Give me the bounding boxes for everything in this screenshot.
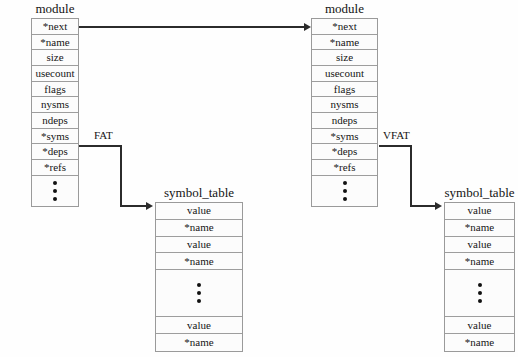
edge-vfat-segment-horizontal-bottom xyxy=(410,205,437,207)
edge-fat-segment-horizontal-top xyxy=(79,145,122,147)
field-nysms: nysms xyxy=(312,97,377,113)
struct-symbol-table-left: symbol_table value *name value *name val… xyxy=(155,185,243,355)
field-syms: *syms xyxy=(32,129,78,145)
field-refs: *refs xyxy=(32,160,78,176)
ellipsis-dot xyxy=(343,189,347,193)
diagram-canvas: module *next *name size usecount flags n… xyxy=(0,0,518,357)
edge-label-vfat: VFAT xyxy=(383,130,410,141)
struct-title-symbol-table-right: symbol_table xyxy=(444,185,515,200)
edge-vfat-segment-horizontal-top xyxy=(379,145,412,147)
struct-module-left: module *next *name size usecount flags n… xyxy=(31,0,79,210)
entry-value: value xyxy=(156,237,242,254)
edge-fat-segment-vertical xyxy=(120,145,122,207)
field-deps: *deps xyxy=(312,144,377,160)
ellipsis-dot xyxy=(197,283,201,287)
field-usecount: usecount xyxy=(312,66,377,82)
field-next: *next xyxy=(312,19,377,35)
field-usecount: usecount xyxy=(32,66,78,82)
entry-name: *name xyxy=(156,334,242,351)
ellipsis-dot xyxy=(478,299,482,303)
field-syms: *syms xyxy=(312,129,377,145)
entry-continuation-ellipsis xyxy=(445,270,514,317)
field-nysms: nysms xyxy=(32,97,78,113)
struct-box-module-right: *next *name size usecount flags nysms nd… xyxy=(311,18,378,207)
edge-fat-segment-horizontal-bottom xyxy=(120,205,148,207)
edge-vfat-arrowhead xyxy=(435,202,442,210)
ellipsis-dot xyxy=(343,181,347,185)
entry-value: value xyxy=(445,203,514,220)
edge-fat-arrowhead xyxy=(146,202,153,210)
field-deps: *deps xyxy=(32,144,78,160)
struct-box-symbol-table-right: value *name value *name value *name xyxy=(444,202,515,352)
field-refs: *refs xyxy=(312,160,377,176)
edge-next-link-arrowhead xyxy=(304,23,311,31)
edge-vfat-segment-vertical xyxy=(410,145,412,207)
entry-value: value xyxy=(445,237,514,254)
entry-name: *name xyxy=(156,253,242,270)
ellipsis-dot xyxy=(478,291,482,295)
field-continuation-ellipsis xyxy=(312,176,377,206)
struct-title-module-right: module xyxy=(311,1,378,16)
entry-name: *name xyxy=(445,220,514,237)
ellipsis-dot xyxy=(343,197,347,201)
entry-name: *name xyxy=(156,220,242,237)
struct-symbol-table-right: symbol_table value *name value *name val… xyxy=(444,185,515,355)
struct-title-module-left: module xyxy=(31,1,79,16)
field-name: *name xyxy=(32,35,78,51)
edge-label-fat: FAT xyxy=(94,130,113,141)
edge-next-link-horizontal xyxy=(79,26,306,28)
field-name: *name xyxy=(312,35,377,51)
entry-continuation-ellipsis xyxy=(156,270,242,317)
struct-module-right: module *next *name size usecount flags n… xyxy=(311,0,378,210)
field-flags: flags xyxy=(32,82,78,98)
ellipsis-dot xyxy=(53,181,57,185)
ellipsis-dot xyxy=(53,189,57,193)
entry-name: *name xyxy=(445,334,514,351)
field-ndeps: ndeps xyxy=(32,113,78,129)
entry-value: value xyxy=(156,317,242,334)
struct-title-symbol-table-left: symbol_table xyxy=(155,185,243,200)
ellipsis-dot xyxy=(197,291,201,295)
ellipsis-dot xyxy=(478,283,482,287)
field-size: size xyxy=(312,50,377,66)
entry-name: *name xyxy=(445,253,514,270)
ellipsis-dot xyxy=(53,197,57,201)
field-size: size xyxy=(32,50,78,66)
field-flags: flags xyxy=(312,82,377,98)
entry-value: value xyxy=(156,203,242,220)
ellipsis-dot xyxy=(197,299,201,303)
struct-box-module-left: *next *name size usecount flags nysms nd… xyxy=(31,18,79,207)
field-continuation-ellipsis xyxy=(32,176,78,206)
entry-value: value xyxy=(445,317,514,334)
field-next: *next xyxy=(32,19,78,35)
struct-box-symbol-table-left: value *name value *name value *name xyxy=(155,202,243,352)
field-ndeps: ndeps xyxy=(312,113,377,129)
